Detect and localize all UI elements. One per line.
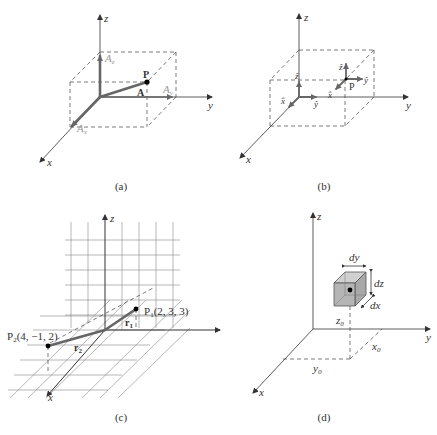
panel-c-z-label: z	[109, 212, 115, 224]
panel-d-z-label: z	[316, 210, 322, 222]
panel-b-p-xhat	[336, 79, 346, 89]
panel-b-point-P	[345, 78, 348, 81]
panel-b-p-zhat-label: ẑ	[338, 62, 343, 72]
panel-b-y-label: y	[405, 99, 411, 111]
panel-c-P1-label: P1(2, 3, 3)	[144, 305, 189, 319]
panel-c-caption: (c)	[115, 411, 128, 424]
panel-c-P2-label: P2(4, −1, 2)	[7, 330, 58, 344]
panel-b-caption: (b)	[318, 180, 331, 193]
panel-d-y0-label: y0	[312, 362, 322, 376]
panel-a-caption: (a)	[115, 180, 128, 193]
panel-d-x-axis	[253, 329, 313, 393]
panel-a-y-label: y	[207, 99, 213, 111]
panel-d-x0-line	[350, 329, 382, 359]
panel-c-r1-label: r1	[125, 317, 133, 330]
panel-d-x0-label: x0	[371, 340, 381, 354]
panel-d: z y x dy dz dx z0 x0 y0 (d)	[253, 210, 431, 424]
panel-a: z y x P A Az Ay Ax (a)	[40, 12, 213, 193]
panel-a-A-label: A	[137, 87, 145, 98]
panel-b-box	[270, 50, 374, 126]
panel-d-y-label: y	[425, 331, 431, 343]
panel-a-point-P	[144, 79, 149, 84]
panel-c: z x P1(2, 3, 3) P2(4, −1, 2) r1 r2 (c)	[7, 212, 220, 424]
panel-d-caption: (d)	[318, 411, 331, 424]
panel-d-dz-label: dz	[374, 277, 385, 289]
panel-b: z y x P ẑ ŷ x̂ ẑ ŷ x̂ (b)	[240, 11, 411, 193]
panel-c-x-label: x	[47, 391, 53, 403]
panel-b-p-xhat-label: x̂	[327, 90, 332, 100]
panel-a-Ay-label: Ay	[162, 83, 174, 97]
panel-c-r2-label: r2	[74, 342, 82, 355]
panel-a-Az-label: Az	[104, 52, 115, 66]
figure-canvas: z y x P A Az Ay Ax (a)	[0, 0, 437, 435]
panel-a-P-label: P	[143, 69, 149, 80]
panel-b-x-label: x	[245, 153, 251, 165]
panel-c-point-P1	[134, 307, 139, 312]
panel-b-origin-xhat	[289, 97, 299, 107]
panel-b-origin-yhat-label: ŷ	[313, 99, 318, 109]
panel-b-P-label: P	[349, 81, 355, 92]
panel-d-dy-label: dy	[349, 251, 360, 263]
panel-d-cube-center	[348, 288, 353, 293]
panel-b-z-label: z	[303, 11, 309, 23]
panel-b-p-yhat-label: ŷ	[363, 75, 368, 85]
panel-a-z-label: z	[103, 12, 109, 24]
panel-d-dx-label: dx	[370, 299, 381, 311]
panel-c-point-P2	[46, 344, 51, 349]
panel-a-Ax-label: Ax	[76, 122, 88, 136]
panel-a-x-label: x	[46, 156, 52, 168]
panel-b-origin-xhat-label: x̂	[280, 96, 285, 106]
panel-d-z0-label: z0	[335, 314, 344, 328]
panel-d-x-label: x	[258, 386, 264, 398]
panel-d-cube	[334, 272, 366, 306]
panel-b-origin-zhat-label: ẑ	[294, 71, 299, 81]
